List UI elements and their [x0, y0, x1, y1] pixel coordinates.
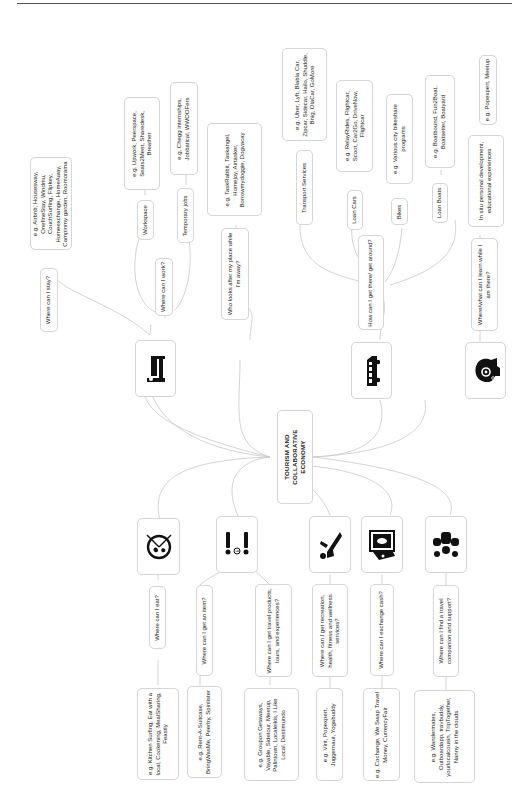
plate-cutlery-icon — [144, 532, 174, 562]
link-root-learn — [313, 400, 426, 457]
root-label: TOURISM AND COLLABORATIVE ECONOMY — [283, 412, 307, 502]
bed-icon — [145, 354, 167, 384]
examples-recreation[interactable]: e.g. Vint, Popexpert, Juggernaut, Yogabu… — [316, 688, 343, 781]
examples-recreation-text: e.g. Vint, Popexpert, Juggernaut, Yogabu… — [322, 692, 337, 778]
sub-in-situ-label: In situ personal development, educationa… — [478, 138, 493, 224]
svg-text:$: $ — [235, 549, 240, 552]
examples-products[interactable]: e.g. Groupon Getaways, Vayable, Sidetour… — [244, 688, 299, 781]
link-root-eat — [158, 457, 270, 520]
sub-transport-services-label: Transport Services — [301, 152, 309, 224]
examples-transport-services[interactable]: e.g. Uber, Lyft, Blabla Car, Zipcar, Sid… — [282, 48, 327, 141]
examples-learn[interactable]: e.g. Popexpert, Meetup — [479, 55, 497, 125]
examples-loan-cars[interactable]: e.g. RelayRides, Flightcar, Scoot, Car2G… — [336, 80, 373, 172]
examples-products-text: e.g. Groupon Getaways, Vayable, Sidetour… — [256, 692, 286, 778]
examples-item-text: e.g. Rent-A-Suitcase, BringWasMe, Peerby… — [197, 689, 212, 775]
branch-eat-icon-node[interactable] — [137, 518, 180, 575]
link-root-home — [239, 360, 270, 457]
people-exchange-icon: $ — [222, 530, 252, 560]
sub-loan-cars-label: Loan Cars — [351, 191, 359, 229]
examples-item[interactable]: e.g. Rent-A-Suitcase, BringWasMe, Peerby… — [187, 686, 222, 778]
link-root-companion — [313, 457, 451, 515]
examples-workspace[interactable]: e.g. Upwork, Peerspace, Seats2Meet, Shar… — [124, 97, 160, 190]
sub-temporary-jobs-label: Temporary jobs — [182, 190, 190, 242]
sub-bikes-label: Bikes — [396, 199, 404, 225]
sub-temporary-jobs[interactable]: Temporary jobs — [177, 188, 194, 243]
link-root-van — [313, 400, 382, 457]
question-stay[interactable]: Where can I stay? — [40, 268, 58, 332]
van-icon — [364, 354, 380, 388]
sub-loan-cars[interactable]: Loan Cars — [347, 190, 363, 230]
question-home-care[interactable]: Who looks after my place while I'm away? — [221, 228, 249, 320]
question-work-label: Where can I work? — [160, 260, 168, 314]
sub-loan-boats-label: Loan Boats — [436, 184, 444, 222]
sub-transport-services[interactable]: Transport Services — [296, 150, 313, 225]
branch-cash-icon-node[interactable] — [361, 516, 403, 573]
examples-bikes[interactable]: e.g. Various city bikeshare programs — [386, 94, 413, 184]
question-learn-label: Where/what can I learn while I am there? — [477, 242, 492, 328]
examples-eat[interactable]: e.g. Kitchen Surfing, Eat with a local, … — [137, 688, 179, 780]
sub-bikes[interactable]: Bikes — [391, 198, 408, 225]
question-item-label: Where can I get an item? — [201, 588, 209, 674]
money-icon — [367, 528, 397, 562]
examples-companion[interactable]: e.g. Wandermates, Outboardapp, travbuddy… — [414, 690, 475, 783]
sub-workspace-label: Workspace — [142, 201, 150, 239]
examples-cash[interactable]: e.g. Cochange, We Swap Travel Money, Cur… — [363, 688, 400, 781]
question-eat[interactable]: Where can I eat? — [149, 586, 166, 649]
examples-home-care-text: e.g. TaskRabbit, Taskangel, Homejoy, Air… — [223, 127, 246, 213]
examples-loan-boats[interactable]: e.g. Boatbound, Fun2Boat, Boatsetter, Bo… — [425, 75, 455, 168]
question-item[interactable]: Where can I get an item? — [196, 585, 213, 676]
question-recreation[interactable]: Where can I get recreation, health, fitn… — [312, 584, 348, 677]
head-gear-icon — [471, 356, 501, 386]
question-learn[interactable]: Where/what can I learn while I am there? — [471, 238, 498, 331]
question-cash-label: Where can I exchange cash? — [378, 587, 386, 673]
question-companion[interactable]: Where can I find a travel companion and … — [433, 585, 459, 677]
examples-companion-text: e.g. Wandermates, Outboardapp, travbuddy… — [429, 694, 459, 780]
examples-loan-boats-text: e.g. Boatbound, Fun2Boat, Boatsetter, Bo… — [432, 79, 447, 165]
question-products[interactable]: Where can I get travel products, tours, … — [255, 584, 292, 677]
examples-temporary-jobs-text: e.g. Chegg internships, Jobbatical, WWOO… — [176, 86, 191, 172]
examples-transport-services-text: e.g. Uber, Lyft, Blabla Car, Zipcar, Sid… — [293, 52, 316, 138]
examples-eat-text: e.g. Kitchen Surfing, Eat with a local, … — [147, 691, 170, 777]
slide-person-icon — [318, 528, 342, 562]
question-stay-label: Where can I stay? — [45, 270, 53, 330]
branch-companion-icon-node[interactable] — [425, 516, 467, 573]
question-eat-label: Where can I eat? — [154, 588, 162, 648]
branch-recreation-icon-node[interactable] — [309, 516, 351, 573]
examples-learn-text: e.g. Popexpert, Meetup — [484, 56, 492, 124]
examples-home-care[interactable]: e.g. TaskRabbit, Taskangel, Homejoy, Air… — [207, 123, 262, 216]
question-work[interactable]: Where can I work? — [155, 258, 173, 316]
examples-stay-text: e.g. Airbnb, Housesway, OnefineStay, Win… — [32, 161, 70, 247]
link-root-item — [232, 457, 270, 520]
question-cash[interactable]: Where can I exchange cash? — [370, 584, 394, 676]
group-icon — [431, 530, 461, 560]
question-products-label: Where can I get travel products, tours, … — [266, 588, 281, 674]
branch-item-icon-node[interactable]: $ — [216, 516, 258, 573]
examples-bikes-text: e.g. Various city bikeshare programs — [392, 97, 407, 181]
examples-stay[interactable]: e.g. Airbnb, Housesway, OnefineStay, Win… — [30, 157, 72, 250]
sub-in-situ[interactable]: In situ personal development, educationa… — [468, 135, 504, 227]
root-node[interactable]: TOURISM AND COLLABORATIVE ECONOMY — [277, 410, 313, 504]
question-recreation-label: Where can I get recreation, health, fitn… — [319, 588, 342, 674]
branch-transport-icon-node[interactable] — [351, 342, 392, 399]
branch-learn-icon-node[interactable] — [465, 342, 506, 399]
question-transport[interactable]: How can I get there/ get around? — [358, 235, 384, 330]
question-home-care-label: Who looks after my place while I'm away? — [227, 231, 242, 317]
branch-stay-icon-node[interactable] — [135, 340, 176, 397]
question-companion-label: Where can I find a travel companion and … — [438, 588, 453, 674]
sub-workspace[interactable]: Workspace — [137, 200, 154, 240]
sub-loan-boats[interactable]: Loan Boats — [432, 183, 448, 223]
question-transport-label: How can I get there/ get around? — [367, 239, 375, 327]
examples-temporary-jobs[interactable]: e.g. Chegg internships, Jobbatical, WWOO… — [170, 82, 198, 175]
examples-cash-text: e.g. Cochange, We Swap Travel Money, Cur… — [374, 692, 389, 778]
examples-workspace-text: e.g. Upwork, Peerspace, Seats2Meet, Shar… — [131, 101, 154, 187]
examples-loan-cars-text: e.g. RelayRides, Flightcar, Scoot, Car2G… — [343, 83, 366, 169]
